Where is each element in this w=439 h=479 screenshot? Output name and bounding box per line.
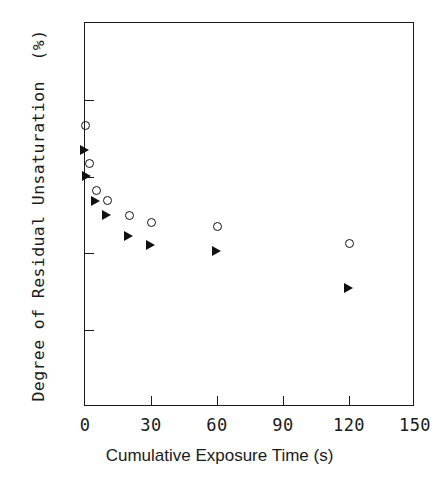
filled-triangle-marker (80, 145, 89, 155)
x-tick-label: 30 (121, 417, 181, 434)
open-circle-marker (92, 186, 101, 195)
open-circle-marker (125, 211, 134, 220)
x-tick-label: 90 (253, 417, 313, 434)
x-tick-label: 120 (319, 417, 379, 434)
open-circle-marker (345, 239, 354, 248)
open-circle-marker (213, 222, 222, 231)
x-tick-mark (151, 396, 152, 405)
open-circle-marker (85, 159, 94, 168)
x-tick-mark (217, 396, 218, 405)
y-tick-mark (85, 330, 94, 331)
x-tick-label: 0 (55, 417, 115, 434)
filled-triangle-marker (91, 196, 100, 206)
filled-triangle-marker (344, 283, 353, 293)
x-tick-mark (283, 396, 284, 405)
filled-triangle-marker (212, 246, 221, 256)
filled-triangle-marker (82, 171, 91, 181)
open-circle-marker (103, 196, 112, 205)
open-circle-marker (81, 121, 90, 130)
y-axis-title: Degree of Residual Unsaturation (%) (29, 16, 48, 416)
filled-triangle-marker (146, 240, 155, 250)
plot-area: 020406080100 0306090120150 (84, 22, 414, 406)
filled-triangle-marker (102, 210, 111, 220)
chart-figure: 020406080100 0306090120150 Cumulative Ex… (0, 0, 439, 479)
x-tick-mark (349, 396, 350, 405)
y-tick-mark (85, 253, 94, 254)
y-tick-mark (85, 100, 94, 101)
x-axis-title: Cumulative Exposure Time (s) (0, 446, 439, 466)
x-tick-label: 60 (187, 417, 247, 434)
x-tick-label: 150 (385, 417, 439, 434)
open-circle-marker (147, 218, 156, 227)
filled-triangle-marker (124, 231, 133, 241)
